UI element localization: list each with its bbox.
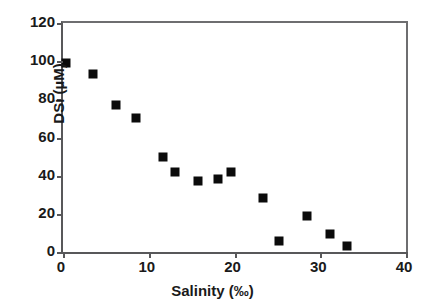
x-axis-tick-label: 20 (224, 258, 241, 275)
y-axis-tick-label: 60 (9, 127, 55, 144)
x-axis-title: Salinity (‰) (0, 282, 425, 299)
data-point (275, 236, 284, 245)
data-point (112, 101, 121, 110)
data-point (258, 193, 267, 202)
data-point (89, 69, 98, 78)
data-point (214, 174, 223, 183)
data-point (159, 152, 168, 161)
y-axis-tick-label: 120 (9, 13, 55, 30)
x-axis-tick-label: 30 (310, 258, 327, 275)
y-axis-tick-label: 20 (9, 203, 55, 220)
y-axis-tick-label: 0 (9, 242, 55, 259)
y-axis-tick-label: 40 (9, 165, 55, 182)
y-axis-tick (57, 214, 63, 216)
x-axis-tick-label: 10 (138, 258, 155, 275)
y-axis-tick (57, 23, 63, 25)
data-point (325, 229, 334, 238)
data-point (171, 167, 180, 176)
plot-area (61, 21, 408, 254)
y-axis-tick-label: 80 (9, 89, 55, 106)
data-point (302, 211, 311, 220)
y-axis-tick (57, 176, 63, 178)
data-point (131, 114, 140, 123)
data-point (193, 177, 202, 186)
x-axis-tick-label: 40 (396, 258, 413, 275)
y-axis-tick-label: 100 (9, 51, 55, 68)
data-point (342, 242, 351, 251)
y-axis-title: DSi (µM) (50, 34, 67, 154)
x-axis-tick-label: 0 (57, 258, 65, 275)
chart-figure: 020406080100120 010203040 DSi (µM) Salin… (0, 0, 425, 308)
data-points-layer (63, 23, 406, 252)
data-point (227, 167, 236, 176)
